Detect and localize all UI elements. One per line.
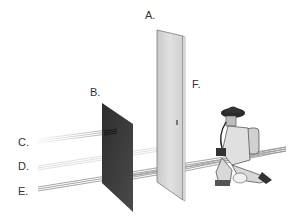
panel-b <box>102 103 133 212</box>
beam-d <box>38 147 160 170</box>
panel-a <box>157 30 185 201</box>
label-d: D. <box>18 161 29 172</box>
label-b: B. <box>90 87 100 98</box>
firefighter-figure <box>215 107 272 187</box>
diagram-canvas <box>0 0 305 221</box>
label-f: F. <box>192 79 201 90</box>
label-c: C. <box>18 137 29 148</box>
radiation-shielding-diagram: A. B. C. D. E. F. <box>0 0 305 221</box>
label-a: A. <box>145 10 155 21</box>
label-e: E. <box>18 186 28 197</box>
